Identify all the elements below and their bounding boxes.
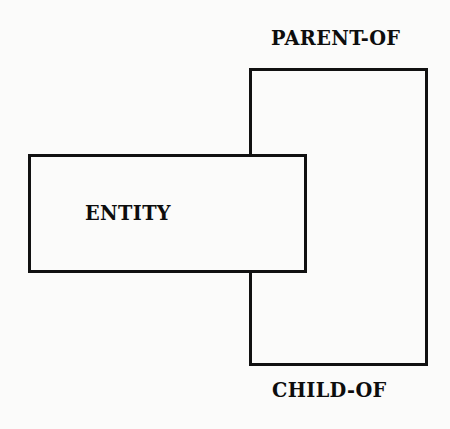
parent-of-label: PARENT-OF [271, 26, 400, 50]
diagram-canvas: PARENT-OF ENTITY CHILD-OF [0, 0, 450, 429]
child-of-label: CHILD-OF [272, 378, 387, 402]
entity-label: ENTITY [85, 201, 171, 225]
